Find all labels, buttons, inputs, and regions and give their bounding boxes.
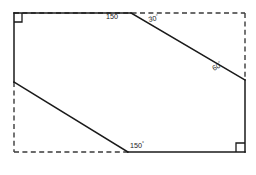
geometry-canvas: 150° 30° 60° 150°: [0, 0, 256, 175]
hexagon-edge-upper-diagonal: [131, 13, 245, 80]
angle-label-30-top: 30°: [147, 12, 159, 23]
dashed-construction-rectangle: [14, 13, 245, 152]
angle-label-150-top: 150°: [106, 11, 120, 21]
angle-label-150-bottom: 150°: [130, 140, 144, 150]
right-angle-marker-top-left: [14, 13, 22, 22]
right-angle-markers: [14, 13, 245, 152]
geometry-diagram: 150° 30° 60° 150°: [0, 0, 256, 175]
hexagon-edge-lower-diagonal: [14, 82, 128, 152]
solid-hexagon: [14, 13, 245, 152]
right-angle-marker-bottom-right: [236, 143, 245, 152]
